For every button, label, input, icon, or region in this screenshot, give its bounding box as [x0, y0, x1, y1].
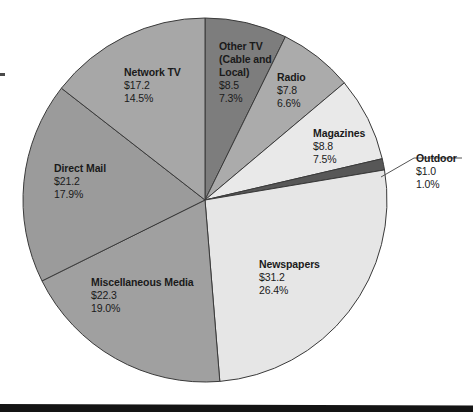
- slice-percent-other-tv: 7.3%: [219, 92, 272, 105]
- slice-percent-miscellaneous-media: 19.0%: [91, 302, 194, 315]
- slice-value-miscellaneous-media: $22.3: [91, 289, 194, 302]
- slice-value-other-tv: $8.5: [219, 79, 272, 92]
- outdoor-leader-line: [381, 158, 414, 177]
- slice-name-radio: Radio: [277, 71, 306, 84]
- slice-value-magazines: $8.8: [313, 140, 365, 153]
- slice-name-direct-mail: Direct Mail: [54, 162, 106, 175]
- left-edge-mark: [0, 73, 5, 76]
- slice-percent-direct-mail: 17.9%: [54, 188, 106, 201]
- slice-name-miscellaneous-media: Miscellaneous Media: [91, 276, 194, 289]
- slice-value-direct-mail: $21.2: [54, 175, 106, 188]
- slice-name-magazines: Magazines: [313, 127, 365, 140]
- slice-percent-newspapers: 26.4%: [259, 284, 320, 297]
- slice-label-outdoor: Outdoor $1.0 1.0%: [416, 152, 457, 191]
- slice-percent-magazines: 7.5%: [313, 153, 365, 166]
- slice-label-magazines: Magazines $8.8 7.5%: [313, 127, 365, 166]
- slice-value-radio: $7.8: [277, 84, 306, 97]
- slice-label-newspapers: Newspapers $31.2 26.4%: [259, 258, 320, 297]
- pie-chart: Network TV $17.2 14.5% Other TV (Cable a…: [0, 0, 473, 418]
- slice-percent-outdoor: 1.0%: [416, 178, 457, 191]
- slice-label-radio: Radio $7.8 6.6%: [277, 71, 306, 110]
- slice-label-network-tv: Network TV $17.2 14.5%: [124, 66, 181, 105]
- slice-value-newspapers: $31.2: [259, 271, 320, 284]
- slice-value-network-tv: $17.2: [124, 79, 181, 92]
- slice-name-outdoor: Outdoor: [416, 152, 457, 165]
- slice-percent-network-tv: 14.5%: [124, 92, 181, 105]
- slice-percent-radio: 6.6%: [277, 97, 306, 110]
- slice-name-network-tv: Network TV: [124, 66, 181, 79]
- slice-name-newspapers: Newspapers: [259, 258, 320, 271]
- slice-label-miscellaneous-media: Miscellaneous Media $22.3 19.0%: [91, 276, 194, 315]
- slice-value-outdoor: $1.0: [416, 165, 457, 178]
- slice-label-direct-mail: Direct Mail $21.2 17.9%: [54, 162, 106, 201]
- slice-name-other-tv: Other TV (Cable and Local): [219, 40, 272, 79]
- slice-label-other-tv: Other TV (Cable and Local) $8.5 7.3%: [219, 40, 272, 105]
